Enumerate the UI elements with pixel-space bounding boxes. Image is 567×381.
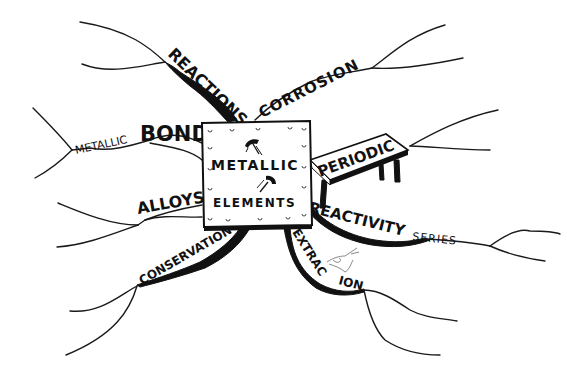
branch-label-extraction-part2: ION <box>337 273 364 293</box>
mind-map-canvas: REACTIONS CORROSION METALLIC BOND ALLOYS… <box>0 0 567 381</box>
branch-sublabel-series: SERIES <box>412 230 458 248</box>
branch-bond: METALLIC BOND <box>33 108 209 178</box>
branch-periodic: PERIODIC <box>310 110 498 208</box>
branch-label-bond: BOND <box>140 122 209 146</box>
branch-conservation: CONSERVATION <box>66 223 250 355</box>
branch-label-extraction: EXTRAC <box>289 226 329 279</box>
branch-reactivity: REACTIVITY SERIES <box>304 198 560 261</box>
branch-corrosion: CORROSION <box>255 25 463 122</box>
hand-icon <box>327 248 359 272</box>
branch-label-alloys: ALLOYS <box>135 187 206 218</box>
branch-label-corrosion: CORROSION <box>256 55 362 121</box>
central-title-line2: ELEMENTS <box>213 196 296 210</box>
branch-reactions: REACTIONS <box>80 22 251 129</box>
central-topic: METALLIC ELEMENTS <box>202 121 312 231</box>
branch-sublabel-metallic: METALLIC <box>74 133 129 157</box>
branch-extraction: EXTRAC ION <box>284 226 457 355</box>
periodic-table-shape: PERIODIC <box>310 134 408 208</box>
branch-label-reactions: REACTIONS <box>164 44 251 129</box>
branch-alloys: ALLOYS <box>57 187 206 247</box>
central-title-line1: METALLIC <box>211 157 299 173</box>
